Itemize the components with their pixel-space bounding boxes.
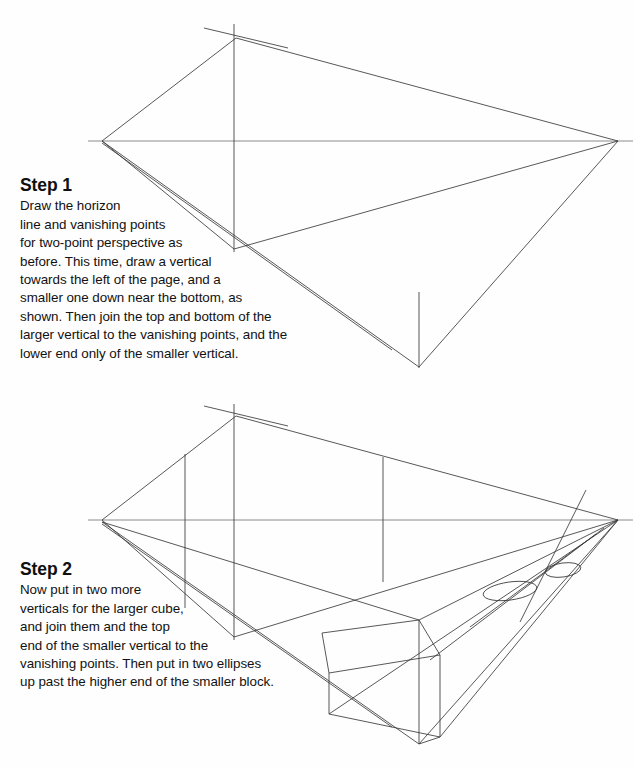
top-to-left-vp	[102, 38, 236, 141]
ellipse-guide-lower	[430, 528, 604, 660]
small-bottom-to-right-vp	[419, 520, 618, 744]
step-2-line-1: Now put in two more	[20, 581, 320, 599]
step-1-line-2: line and vanishing points	[20, 216, 320, 234]
top-to-left-vp	[102, 416, 236, 520]
step-1-line-4: before. This time, draw a vertical	[20, 253, 320, 271]
right-vp-to-block-left-corner	[329, 520, 618, 714]
step-1-line-1: Draw the horizon	[20, 197, 320, 215]
step-1-line-9: lower end only of the smaller vertical.	[20, 345, 320, 363]
block-left-top-edge	[322, 633, 329, 673]
step-1-body: Draw the horizon line and vanishing poin…	[20, 197, 320, 363]
block-top-front-edge	[329, 655, 440, 673]
top-to-right-vp	[236, 38, 618, 141]
lower-left-ellipse	[482, 578, 538, 603]
step-2-line-2: verticals for the larger cube,	[20, 600, 320, 618]
small-top-to-right-vp	[419, 520, 618, 620]
block-bottom-right-edge	[419, 737, 440, 744]
step-1-line-3: for two-point perspective as	[20, 234, 320, 252]
ellipse-axis-guide	[520, 490, 586, 622]
step-2-heading: Step 2	[20, 560, 320, 579]
step-2-line-5: vanishing points. Then put in two ellips…	[20, 655, 320, 673]
top-crossing-guide	[204, 406, 288, 426]
page-background: Step 1 Draw the horizon line and vanishi…	[0, 0, 633, 768]
step-1-heading: Step 1	[20, 176, 320, 195]
step-2-line-3: and join them and the top	[20, 618, 320, 636]
right-vp-to-block-corner	[440, 520, 618, 737]
block-bottom-front-edge	[329, 714, 440, 737]
top-to-right-vp	[236, 416, 618, 520]
block-right-top-edge	[419, 620, 440, 655]
top-crossing-guide	[204, 28, 288, 48]
upper-right-ellipse	[544, 561, 582, 580]
step-1-line-7: shown. Then join the top and bottom of t…	[20, 308, 320, 326]
block-top-back-edge	[322, 620, 419, 633]
step-1-line-5: towards the left of the page, and a	[20, 271, 320, 289]
step-1-line-8: larger vertical to the vanishing points,…	[20, 326, 320, 344]
ellipse-guide-upper	[470, 534, 596, 627]
step-1-caption: Step 1 Draw the horizon line and vanishi…	[20, 176, 320, 363]
step-1-line-6: smaller one down near the bottom, as	[20, 289, 320, 307]
step-2-caption: Step 2 Now put in two more verticals for…	[20, 560, 320, 692]
step-2-line-4: end of the smaller vertical to the	[20, 637, 320, 655]
small-bottom-to-right-vp	[419, 141, 618, 367]
step-2-body: Now put in two more verticals for the la…	[20, 581, 320, 692]
step-2-line-6: up past the higher end of the smaller bl…	[20, 673, 320, 691]
